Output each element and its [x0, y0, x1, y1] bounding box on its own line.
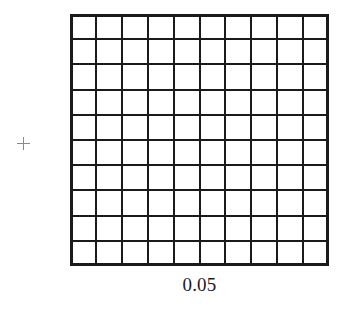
grid-line-horizontal — [70, 215, 329, 217]
grid-line-horizontal — [70, 114, 329, 116]
scale-bar-caption: 0.05 — [70, 274, 329, 296]
grid-panel — [70, 14, 329, 266]
grid-line-horizontal — [70, 63, 329, 65]
grid-line-horizontal — [70, 164, 329, 166]
plus-marker-vertical-stroke — [23, 137, 24, 150]
grid-line-horizontal — [70, 38, 329, 40]
grid-line-horizontal — [70, 189, 329, 191]
grid-line-horizontal — [70, 89, 329, 91]
figure-canvas: 0.05 — [0, 0, 346, 320]
grid-line-horizontal — [70, 240, 329, 242]
grid-line-horizontal — [70, 139, 329, 141]
grid-svg — [70, 14, 329, 266]
plus-marker-icon — [17, 137, 30, 150]
